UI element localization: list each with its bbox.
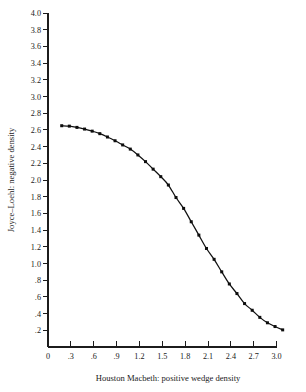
data-point (274, 325, 277, 328)
y-tick-label: 3.2 (31, 76, 41, 85)
y-tick-label: 3.8 (31, 26, 41, 35)
y-tick-label: 1.8 (31, 193, 41, 202)
data-point (144, 160, 147, 163)
data-point (136, 153, 139, 156)
chart-figure: .2.4.6.81.01.21.41.61.82.02.22.42.62.83.… (0, 0, 306, 392)
x-tick-label: 1.8 (180, 352, 190, 361)
y-tick-label: 3.6 (31, 42, 41, 51)
data-point (121, 143, 124, 146)
data-point (167, 184, 170, 187)
x-tick-label: 0 (46, 352, 50, 361)
data-point (228, 282, 231, 285)
x-tick-label: .6 (91, 352, 97, 361)
y-tick-label: 2.8 (31, 109, 41, 118)
scatter-line-chart: .2.4.6.81.01.21.41.61.82.02.22.42.62.83.… (0, 0, 306, 392)
y-tick-label: 2.6 (31, 126, 41, 135)
y-tick-label: .2 (35, 326, 41, 335)
data-point (251, 309, 254, 312)
data-point (159, 175, 162, 178)
data-point (83, 128, 86, 131)
data-point (197, 234, 200, 237)
y-tick-label: 1.4 (31, 226, 41, 235)
data-point (114, 139, 117, 142)
x-tick-label: 2.1 (203, 352, 213, 361)
y-tick-label: 1.6 (31, 209, 41, 218)
data-point (129, 148, 132, 151)
data-point (68, 125, 71, 128)
data-point (75, 126, 78, 129)
x-tick-label: 2.7 (249, 352, 259, 361)
y-tick-label: 3.4 (31, 59, 41, 68)
x-tick-label: 2.4 (226, 352, 236, 361)
data-point (243, 302, 246, 305)
data-point (91, 130, 94, 133)
y-tick-label: 1.2 (31, 243, 41, 252)
y-tick-label: 2.4 (31, 143, 41, 152)
data-point (175, 196, 178, 199)
y-tick-label: 3.0 (31, 93, 41, 102)
x-tick-label: 1.2 (134, 352, 144, 361)
y-tick-label: 2.0 (31, 176, 41, 185)
data-point (98, 132, 101, 135)
x-tick-label: 1.5 (157, 352, 167, 361)
data-point (190, 220, 193, 223)
data-point (258, 316, 261, 319)
y-axis-title: Joyce–Loehl: negative density (6, 127, 16, 232)
y-tick-label: 2.2 (31, 159, 41, 168)
y-tick-label: 1.0 (31, 260, 41, 269)
x-tick-label: .3 (68, 352, 74, 361)
y-tick-label: .6 (35, 293, 41, 302)
data-point (205, 247, 208, 250)
y-tick-label: 4.0 (31, 9, 41, 18)
data-point (106, 136, 109, 139)
data-point (182, 207, 185, 210)
x-axis-title: Houston Macbeth: positive wedge density (96, 373, 241, 383)
data-point (281, 328, 284, 331)
x-tick-label: 3.0 (271, 352, 281, 361)
chart-background (0, 0, 306, 392)
data-point (60, 124, 63, 127)
y-tick-label: .8 (35, 276, 41, 285)
data-point (213, 258, 216, 261)
x-tick-label: .9 (114, 352, 120, 361)
data-point (235, 292, 238, 295)
data-point (152, 168, 155, 171)
data-point (266, 321, 269, 324)
data-point (220, 270, 223, 273)
y-tick-label: .4 (35, 310, 41, 319)
